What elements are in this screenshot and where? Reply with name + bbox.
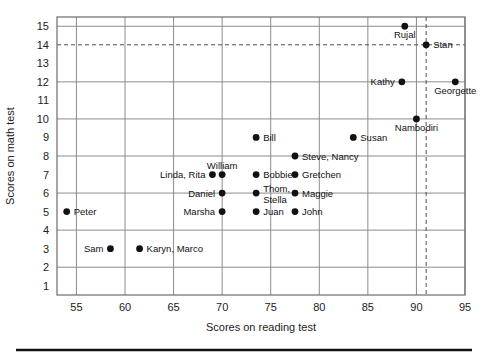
- plot-canvas: 556065707580859095 123456789101112131415…: [0, 0, 488, 357]
- x-tick-label: 85: [362, 301, 374, 313]
- point-marker: [219, 190, 226, 197]
- gridlines: [57, 17, 465, 295]
- data-point: Bill: [253, 132, 276, 143]
- x-tick-label: 55: [70, 301, 82, 313]
- x-tick-label: 75: [265, 301, 277, 313]
- data-point: John: [292, 206, 323, 217]
- point-label: Susan: [360, 132, 387, 143]
- point-label: Linda, Rita: [160, 169, 206, 180]
- data-point: Karyn, Marco: [136, 243, 203, 254]
- point-label: Stan: [433, 39, 453, 50]
- point-marker: [253, 134, 260, 141]
- point-marker: [63, 208, 70, 215]
- y-tick-label: 10: [37, 113, 49, 125]
- point-marker: [253, 190, 260, 197]
- point-label: Sam: [84, 243, 104, 254]
- y-tick-label: 9: [43, 131, 49, 143]
- x-tick-label: 70: [216, 301, 228, 313]
- point-label: Bill: [263, 132, 276, 143]
- point-marker: [350, 134, 357, 141]
- point-label: Rujal: [394, 29, 416, 40]
- point-label: Nambodiri: [395, 122, 438, 133]
- point-label: Kathy: [371, 76, 396, 87]
- data-point: Susan: [350, 132, 387, 143]
- y-axis-tick-labels: 123456789101112131415: [37, 20, 49, 291]
- point-label: Peter: [74, 206, 97, 217]
- scatter-plot-figure: 556065707580859095 123456789101112131415…: [0, 0, 488, 357]
- y-tick-label: 15: [37, 20, 49, 32]
- data-point: Maggie: [292, 188, 334, 199]
- point-marker: [107, 245, 114, 252]
- point-label: William: [207, 160, 238, 171]
- data-point: Thom,Stella: [253, 183, 290, 205]
- data-point: Georgette: [434, 78, 476, 95]
- y-tick-label: 3: [43, 243, 49, 255]
- data-point: Daniel: [188, 188, 225, 199]
- point-marker: [398, 78, 405, 85]
- point-label: Juan: [263, 206, 284, 217]
- point-marker: [292, 171, 299, 178]
- point-marker: [292, 208, 299, 215]
- point-label: Stella: [263, 194, 287, 205]
- point-label: Thom,: [263, 183, 290, 194]
- y-tick-label: 4: [43, 224, 49, 236]
- y-tick-label: 11: [38, 94, 49, 106]
- data-point: Nambodiri: [395, 116, 438, 133]
- point-label: Gretchen: [302, 169, 341, 180]
- point-label: Karyn, Marco: [147, 243, 204, 254]
- point-label: Maggie: [302, 188, 333, 199]
- x-axis-tick-labels: 556065707580859095: [70, 301, 471, 313]
- data-point: Stan: [423, 39, 453, 50]
- point-marker: [292, 190, 299, 197]
- y-tick-label: 1: [43, 280, 49, 292]
- x-tick-label: 90: [410, 301, 422, 313]
- point-label: Daniel: [188, 188, 215, 199]
- point-label: Steve, Nancy: [302, 151, 359, 162]
- point-marker: [219, 171, 226, 178]
- y-tick-label: 2: [43, 261, 49, 273]
- point-marker: [423, 41, 430, 48]
- point-marker: [209, 171, 216, 178]
- data-point: Rujal: [394, 23, 416, 40]
- y-tick-label: 14: [37, 39, 49, 51]
- point-marker: [292, 153, 299, 160]
- y-tick-label: 7: [43, 169, 49, 181]
- point-marker: [253, 208, 260, 215]
- x-axis-title: Scores on reading test: [206, 321, 316, 333]
- data-point: Peter: [63, 206, 96, 217]
- x-tick-label: 95: [459, 301, 471, 313]
- point-label: Bobbie: [263, 169, 293, 180]
- x-tick-label: 60: [119, 301, 131, 313]
- data-point: Kathy: [371, 76, 406, 87]
- point-label: Marsha: [183, 206, 215, 217]
- data-point: Gretchen: [292, 169, 341, 180]
- data-point: Steve, Nancy: [292, 151, 359, 162]
- data-point: Juan: [253, 206, 284, 217]
- point-label: John: [302, 206, 323, 217]
- point-marker: [136, 245, 143, 252]
- y-axis-title: Scores on math test: [4, 107, 16, 205]
- point-label: Georgette: [434, 85, 476, 96]
- y-tick-label: 8: [43, 150, 49, 162]
- y-tick-label: 6: [43, 187, 49, 199]
- data-point: Sam: [84, 243, 114, 254]
- point-marker: [219, 208, 226, 215]
- x-tick-label: 65: [167, 301, 179, 313]
- data-point: Marsha: [183, 206, 225, 217]
- data-point: Linda, Rita: [160, 169, 216, 180]
- y-tick-label: 12: [37, 76, 49, 88]
- y-tick-label: 13: [37, 57, 49, 69]
- y-tick-label: 5: [43, 206, 49, 218]
- data-point: Bobbie: [253, 169, 293, 180]
- x-tick-label: 80: [313, 301, 325, 313]
- point-marker: [253, 171, 260, 178]
